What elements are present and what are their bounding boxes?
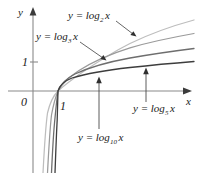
chart-canvas: y x 0 1 1 y = log2x y = log3x y = log5x … — [0, 0, 202, 173]
y-tick-label-1: 1 — [22, 55, 28, 69]
leader-arrowhead-log2 — [130, 31, 136, 36]
label-log3-arg: x — [72, 30, 78, 42]
leader-arrowhead-log10 — [96, 77, 102, 84]
label-log2-text: y = log — [67, 9, 100, 21]
label-log5: y = log5x — [132, 102, 175, 117]
curve-log2 — [43, 20, 194, 173]
label-log10-arg: x — [117, 131, 123, 143]
label-log3-text: y = log — [35, 30, 68, 42]
logarithm-graph-figure: y x 0 1 1 y = log2x y = log3x y = log5x … — [0, 0, 202, 173]
label-log5-subscript: 5 — [165, 109, 169, 117]
curves-group — [43, 20, 194, 173]
label-log3-subscript: 3 — [67, 37, 72, 45]
x-tick-label-1: 1 — [60, 99, 66, 113]
leader-line-log3 — [80, 42, 103, 58]
label-log3: y = log3x — [35, 30, 78, 45]
label-log10: y = log10x — [77, 131, 123, 146]
label-log2: y = log2x — [67, 9, 110, 24]
label-log2-subscript: 2 — [100, 16, 104, 24]
leader-arrowhead-log5 — [143, 68, 149, 75]
label-log5-text: y = log — [132, 102, 165, 114]
origin-label: 0 — [21, 95, 27, 109]
label-log10-text: y = log — [77, 131, 110, 143]
x-axis-arrowhead — [183, 87, 192, 94]
y-axis-label: y — [17, 6, 23, 18]
curve-labels-group: y = log2x y = log3x y = log5x y = log10x — [35, 9, 175, 146]
y-axis-arrowhead — [30, 7, 37, 16]
label-log10-subscript: 10 — [110, 138, 118, 146]
label-log2-arg: x — [104, 9, 110, 21]
leader-line-log2 — [116, 21, 133, 34]
curve-log10 — [55, 62, 194, 174]
x-axis-label: x — [185, 95, 191, 107]
label-log5-arg: x — [169, 102, 175, 114]
